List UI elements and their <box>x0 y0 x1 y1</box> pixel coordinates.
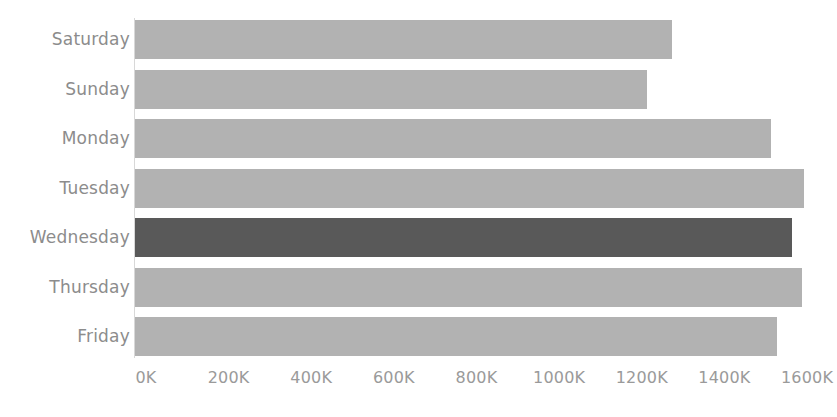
bar-row: Wednesday <box>0 218 837 257</box>
bar-tuesday[interactable] <box>135 169 804 208</box>
bar-saturday[interactable] <box>135 20 672 59</box>
bar-friday[interactable] <box>135 317 777 356</box>
bar-row: Sunday <box>0 70 837 109</box>
x-tick-label-400K: 400K <box>290 368 332 387</box>
x-tick-label-1400K: 1400K <box>698 368 750 387</box>
x-tick-label-0K: 0K <box>135 368 156 387</box>
bar-thursday[interactable] <box>135 268 802 307</box>
bar-row: Thursday <box>0 268 837 307</box>
bar-row: Saturday <box>0 20 837 59</box>
category-label-thursday: Thursday <box>49 268 130 307</box>
x-tick-label-200K: 200K <box>208 368 250 387</box>
bar-chart: SaturdaySundayMondayTuesdayWednesdayThur… <box>0 0 837 417</box>
category-label-wednesday: Wednesday <box>30 218 130 257</box>
bar-row: Monday <box>0 119 837 158</box>
bar-monday[interactable] <box>135 119 771 158</box>
bar-row: Tuesday <box>0 169 837 208</box>
category-label-monday: Monday <box>62 119 130 158</box>
x-tick-label-1000K: 1000K <box>533 368 585 387</box>
bar-wednesday[interactable] <box>135 218 792 257</box>
bar-row: Friday <box>0 317 837 356</box>
x-tick-label-1600K: 1600K <box>781 368 833 387</box>
category-label-tuesday: Tuesday <box>59 169 130 208</box>
bar-sunday[interactable] <box>135 70 647 109</box>
x-axis: 0K200K400K600K800K1000K1200K1400K1600K <box>0 368 837 398</box>
category-label-friday: Friday <box>77 317 130 356</box>
x-tick-label-1200K: 1200K <box>616 368 668 387</box>
x-tick-label-600K: 600K <box>373 368 415 387</box>
x-tick-label-800K: 800K <box>456 368 498 387</box>
plot-area: SaturdaySundayMondayTuesdayWednesdayThur… <box>0 0 837 417</box>
category-label-saturday: Saturday <box>52 20 130 59</box>
category-label-sunday: Sunday <box>65 70 130 109</box>
